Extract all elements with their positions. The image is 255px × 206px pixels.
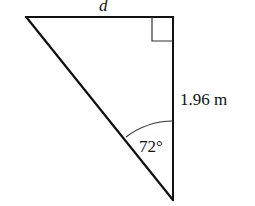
angle-label: 72° [139, 138, 163, 155]
vertical-side-label: 1.96 m [180, 91, 227, 108]
angle-arc [126, 121, 173, 137]
right-angle-marker [152, 17, 173, 41]
side-d-label: d [99, 0, 108, 14]
hypotenuse [27, 18, 173, 200]
